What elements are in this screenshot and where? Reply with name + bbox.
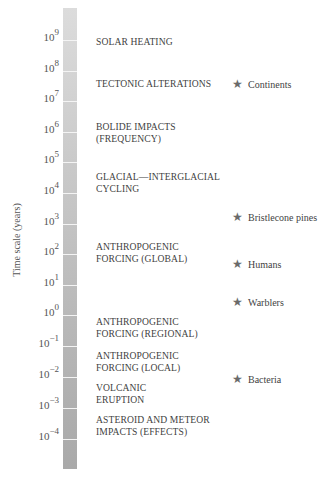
tick-line (63, 132, 77, 133)
process-solar-heating: SOLAR HEATING (96, 36, 173, 48)
tick-label: 103 (44, 216, 60, 227)
tick-line (63, 224, 77, 225)
example-continents: ★Continents (231, 78, 291, 91)
y-axis-title: Time scale (years) (11, 203, 22, 277)
tick-label: 10−3 (38, 400, 59, 411)
tick-line (63, 408, 77, 409)
tick-label: 107 (44, 93, 60, 104)
tick-label: 109 (44, 32, 60, 43)
tick-line (63, 193, 77, 194)
star-icon: ★ (231, 296, 244, 308)
tick-line (63, 254, 77, 255)
star-icon: ★ (231, 258, 244, 270)
tick-label: 104 (44, 185, 60, 196)
tick-line (63, 285, 77, 286)
tick-line (63, 101, 77, 102)
example-humans: ★Humans (231, 258, 281, 271)
process-anthropogenic-global: ANTHROPOGENIC FORCING (GLOBAL) (96, 241, 187, 265)
process-tectonic-alterations: TECTONIC ALTERATIONS (96, 78, 211, 90)
tick-line (63, 315, 77, 316)
tick-label: 105 (44, 154, 60, 165)
star-icon: ★ (231, 78, 244, 90)
example-bristlecone-pines: ★Bristlecone pines (231, 211, 317, 224)
process-glacial-cycling: GLACIAL—INTERGLACIAL CYCLING (96, 171, 220, 195)
tick-line (63, 346, 77, 347)
process-anthropogenic-local: ANTHROPOGENIC FORCING (LOCAL) (96, 350, 180, 374)
tick-label: 106 (44, 124, 60, 135)
process-volcanic-eruption: VOLCANIC ERUPTION (96, 382, 146, 406)
tick-line (63, 162, 77, 163)
tick-label: 102 (44, 246, 60, 257)
tick-line (63, 71, 77, 72)
example-warblers: ★Warblers (231, 296, 284, 309)
tick-label: 10−4 (38, 431, 59, 442)
tick-line (63, 439, 77, 440)
example-bacteria: ★Bacteria (231, 373, 281, 386)
star-icon: ★ (231, 211, 244, 223)
process-asteroid-meteor-impacts: ASTEROID AND METEOR IMPACTS (EFFECTS) (96, 414, 210, 438)
tick-line (63, 40, 77, 41)
tick-label: 100 (44, 307, 60, 318)
tick-label: 10−1 (38, 338, 59, 349)
star-icon: ★ (231, 373, 244, 385)
time-scale-bar (63, 8, 77, 469)
tick-line (63, 377, 77, 378)
time-scale-diagram: Time scale (years) 109 108 107 106 105 1… (0, 0, 336, 485)
process-bolide-impacts: BOLIDE IMPACTS (FREQUENCY) (96, 121, 176, 145)
tick-label: 10−2 (38, 369, 59, 380)
tick-label: 108 (44, 63, 60, 74)
tick-label: 101 (44, 277, 60, 288)
process-anthropogenic-regional: ANTHROPOGENIC FORCING (REGIONAL) (96, 316, 198, 340)
